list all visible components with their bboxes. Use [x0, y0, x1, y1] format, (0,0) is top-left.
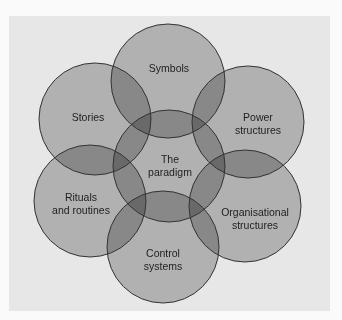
- label-rituals-line2: and routines: [52, 204, 110, 216]
- cultural-web-diagram: Symbols Stories Power structures The par…: [0, 0, 342, 320]
- label-rituals-line1: Rituals: [65, 191, 97, 203]
- label-power-structures-line1: Power: [243, 111, 273, 123]
- label-control-line2: systems: [144, 260, 183, 272]
- page: Symbols Stories Power structures The par…: [0, 0, 342, 320]
- label-symbols: Symbols: [149, 62, 189, 74]
- label-paradigm-line1: The: [161, 153, 179, 165]
- label-power-structures-line2: structures: [235, 124, 281, 136]
- label-stories: Stories: [72, 111, 105, 123]
- label-control-line1: Control: [146, 247, 180, 259]
- label-organisational-line1: Organisational: [221, 206, 289, 218]
- label-paradigm-line2: paradigm: [148, 166, 192, 178]
- label-organisational-line2: structures: [232, 219, 278, 231]
